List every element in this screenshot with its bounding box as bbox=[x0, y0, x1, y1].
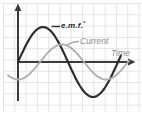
waveform-figure: e.m.f.* Current Time bbox=[0, 0, 142, 123]
current-label: Current bbox=[80, 37, 108, 46]
emf-asterisk: * bbox=[83, 20, 85, 26]
y-axis-arrow-icon bbox=[15, 4, 22, 12]
waveform-chart bbox=[0, 0, 142, 123]
time-axis-label: Time bbox=[111, 49, 130, 58]
emf-label-text: e.m.f. bbox=[61, 21, 83, 30]
emf-label: e.m.f.* bbox=[61, 21, 85, 30]
current-leader-line bbox=[67, 42, 80, 46]
